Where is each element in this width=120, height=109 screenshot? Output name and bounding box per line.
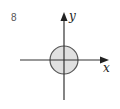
y-axis-label: y [68,9,76,23]
y-axis-arrow-icon [61,12,68,21]
x-axis-label: x [103,61,110,75]
coordinate-diagram: y x [0,0,120,109]
